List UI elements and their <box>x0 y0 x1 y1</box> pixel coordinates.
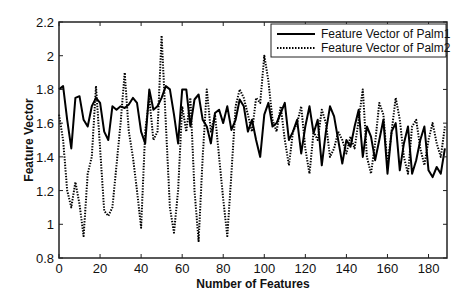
y-tick-label: 0.8 <box>36 251 54 266</box>
y-tick-label: 1.6 <box>36 116 54 131</box>
plot-lines <box>59 36 445 242</box>
y-tick-label: 2.2 <box>36 15 54 30</box>
x-tick-label: 120 <box>294 261 316 276</box>
x-tick-label: 20 <box>93 261 107 276</box>
x-tick-label: 180 <box>418 261 440 276</box>
x-axis-label: Number of Features <box>196 277 310 291</box>
y-tick-label: 2 <box>47 49 54 64</box>
series-line-2 <box>59 36 445 242</box>
x-tick-label: 40 <box>134 261 148 276</box>
x-tick-label: 80 <box>216 261 230 276</box>
x-tick-label: 140 <box>336 261 358 276</box>
legend: Feature Vector of Palm1 Feature Vector o… <box>271 24 451 57</box>
x-axis-ticks: 020406080100120140160180 <box>55 22 439 276</box>
x-tick-label: 0 <box>55 261 62 276</box>
x-tick-label: 100 <box>253 261 275 276</box>
y-tick-label: 1.4 <box>36 150 54 165</box>
line-chart: 020406080100120140160180 0.811.21.41.61.… <box>0 0 468 297</box>
legend-label-palm2: Feature Vector of Palm2 <box>321 41 451 55</box>
legend-label-palm1: Feature Vector of Palm1 <box>321 27 451 41</box>
x-tick-label: 160 <box>377 261 399 276</box>
y-axis-label: Feature Vector <box>22 98 36 182</box>
y-tick-label: 1 <box>47 217 54 232</box>
x-tick-label: 60 <box>175 261 189 276</box>
y-tick-label: 1.8 <box>36 82 54 97</box>
y-tick-label: 1.2 <box>36 184 54 199</box>
